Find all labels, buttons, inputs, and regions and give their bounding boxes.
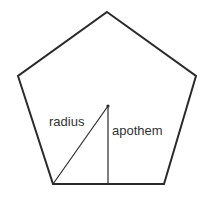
- pentagon-diagram: radius apothem: [0, 0, 209, 197]
- apothem-label: apothem: [112, 123, 163, 138]
- radius-label: radius: [49, 114, 85, 129]
- center-point: [106, 104, 109, 107]
- pentagon-outline: [18, 12, 196, 184]
